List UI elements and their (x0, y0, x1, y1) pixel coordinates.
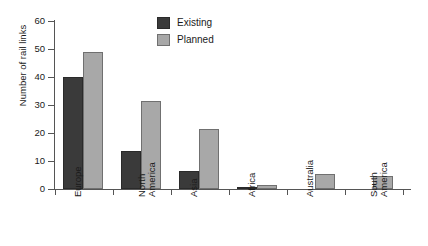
y-tick-label: 30 (0, 99, 45, 110)
x-tick-mark (345, 190, 346, 195)
legend-swatch-planned (157, 34, 170, 46)
legend-label: Planned (177, 35, 214, 45)
y-tick-label: 40 (0, 71, 45, 82)
x-tick-label-australia: Australia (305, 127, 315, 197)
bar-chart: Number of rail links 6050403020100 Europ… (0, 0, 428, 246)
bar-africa-planned (257, 185, 277, 189)
bar-australia-planned (315, 174, 335, 189)
y-tick-label: 60 (0, 15, 45, 26)
y-tick-label: 50 (0, 43, 45, 54)
bar-asia-planned (199, 129, 219, 189)
x-tick-mark (55, 190, 56, 195)
x-tick-label-south-america: SouthAmerica (369, 127, 389, 197)
chart-legend: ExistingPlanned (157, 16, 214, 50)
y-tick-mark (48, 105, 54, 106)
x-tick-mark (287, 190, 288, 195)
legend-swatch-existing (157, 17, 170, 29)
bar-europe-planned (83, 52, 103, 189)
x-tick-label-europe: Europe (73, 127, 83, 197)
x-tick-label-line: Asia (189, 127, 199, 197)
y-tick-mark (48, 189, 54, 190)
x-tick-label-line: America (147, 127, 157, 197)
x-tick-label-north-america: NorthAmerica (137, 127, 157, 197)
legend-item-planned: Planned (157, 33, 214, 46)
x-tick-label-line: Africa (247, 127, 257, 197)
x-tick-mark (171, 190, 172, 195)
y-tick-label: 0 (0, 183, 45, 194)
x-tick-mark (113, 190, 114, 195)
legend-item-existing: Existing (157, 16, 214, 29)
x-tick-label-line: America (379, 127, 389, 197)
plot-area (55, 21, 410, 189)
y-tick-mark (48, 49, 54, 50)
x-tick-mark (229, 190, 230, 195)
y-tick-mark (48, 133, 54, 134)
y-tick-mark (48, 77, 54, 78)
y-tick-mark (48, 161, 54, 162)
x-tick-mark (403, 190, 404, 195)
y-tick-label: 10 (0, 155, 45, 166)
y-tick-label: 20 (0, 127, 45, 138)
y-tick-mark (48, 21, 54, 22)
x-tick-label-asia: Asia (189, 127, 199, 197)
x-tick-label-line: Europe (73, 127, 83, 197)
legend-label: Existing (177, 18, 212, 28)
x-axis-line (54, 189, 411, 190)
x-tick-label-africa: Africa (247, 127, 257, 197)
x-tick-label-line: Australia (305, 127, 315, 197)
